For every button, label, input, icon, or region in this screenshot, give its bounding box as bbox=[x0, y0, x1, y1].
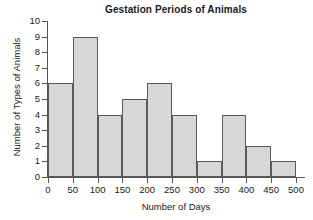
histogram-bar bbox=[271, 161, 296, 177]
y-axis-tick bbox=[42, 177, 47, 178]
x-axis-tick bbox=[296, 178, 297, 183]
x-axis-tick bbox=[48, 178, 49, 183]
x-axis-title: Number of Days bbox=[47, 201, 305, 212]
y-axis-tick bbox=[42, 130, 47, 131]
histogram-bar bbox=[122, 99, 147, 177]
x-axis-tick bbox=[147, 178, 148, 183]
histogram-bar bbox=[98, 115, 123, 177]
histogram-bar bbox=[172, 115, 197, 177]
x-axis-tick bbox=[122, 178, 123, 183]
y-axis-tick-label: 8 bbox=[0, 47, 40, 57]
y-axis-tick-label: 4 bbox=[0, 110, 40, 120]
y-axis-tick bbox=[42, 99, 47, 100]
histogram-bar bbox=[222, 115, 247, 177]
histogram-figure: Gestation Periods of Animals Number of T… bbox=[0, 0, 313, 220]
y-axis-tick-label: 9 bbox=[0, 32, 40, 42]
x-axis-tick-label: 500 bbox=[276, 184, 313, 195]
y-axis-tick bbox=[42, 161, 47, 162]
y-axis-tick bbox=[42, 37, 47, 38]
x-axis-tick bbox=[197, 178, 198, 183]
histogram-bar bbox=[197, 161, 222, 177]
plot-area bbox=[48, 21, 296, 177]
y-axis-tick-label: 7 bbox=[0, 63, 40, 73]
x-axis-tick bbox=[246, 178, 247, 183]
y-axis-tick-label: 3 bbox=[0, 125, 40, 135]
histogram-bar bbox=[147, 83, 172, 177]
y-axis-tick bbox=[42, 83, 47, 84]
chart-title: Gestation Periods of Animals bbox=[47, 4, 305, 16]
x-axis-tick bbox=[172, 178, 173, 183]
histogram-bar bbox=[246, 146, 271, 177]
x-axis-line bbox=[47, 177, 305, 178]
y-axis-tick bbox=[42, 115, 47, 116]
y-axis-tick-label: 10 bbox=[0, 16, 40, 26]
histogram-bar bbox=[73, 37, 98, 177]
x-axis-tick bbox=[271, 178, 272, 183]
y-axis-tick-label: 0 bbox=[0, 172, 40, 182]
y-axis-tick bbox=[42, 52, 47, 53]
y-axis-tick-label: 6 bbox=[0, 78, 40, 88]
histogram-bar bbox=[48, 83, 73, 177]
y-axis-tick bbox=[42, 21, 47, 22]
y-axis-tick bbox=[42, 68, 47, 69]
y-axis-tick-label: 2 bbox=[0, 141, 40, 151]
x-axis-tick bbox=[222, 178, 223, 183]
y-axis-tick-label: 1 bbox=[0, 156, 40, 166]
x-axis-tick bbox=[98, 178, 99, 183]
y-axis-tick bbox=[42, 146, 47, 147]
x-axis-tick-labels: 050100150200250300350400450500 bbox=[0, 184, 313, 198]
y-axis-tick-label: 5 bbox=[0, 94, 40, 104]
x-axis-tick bbox=[73, 178, 74, 183]
